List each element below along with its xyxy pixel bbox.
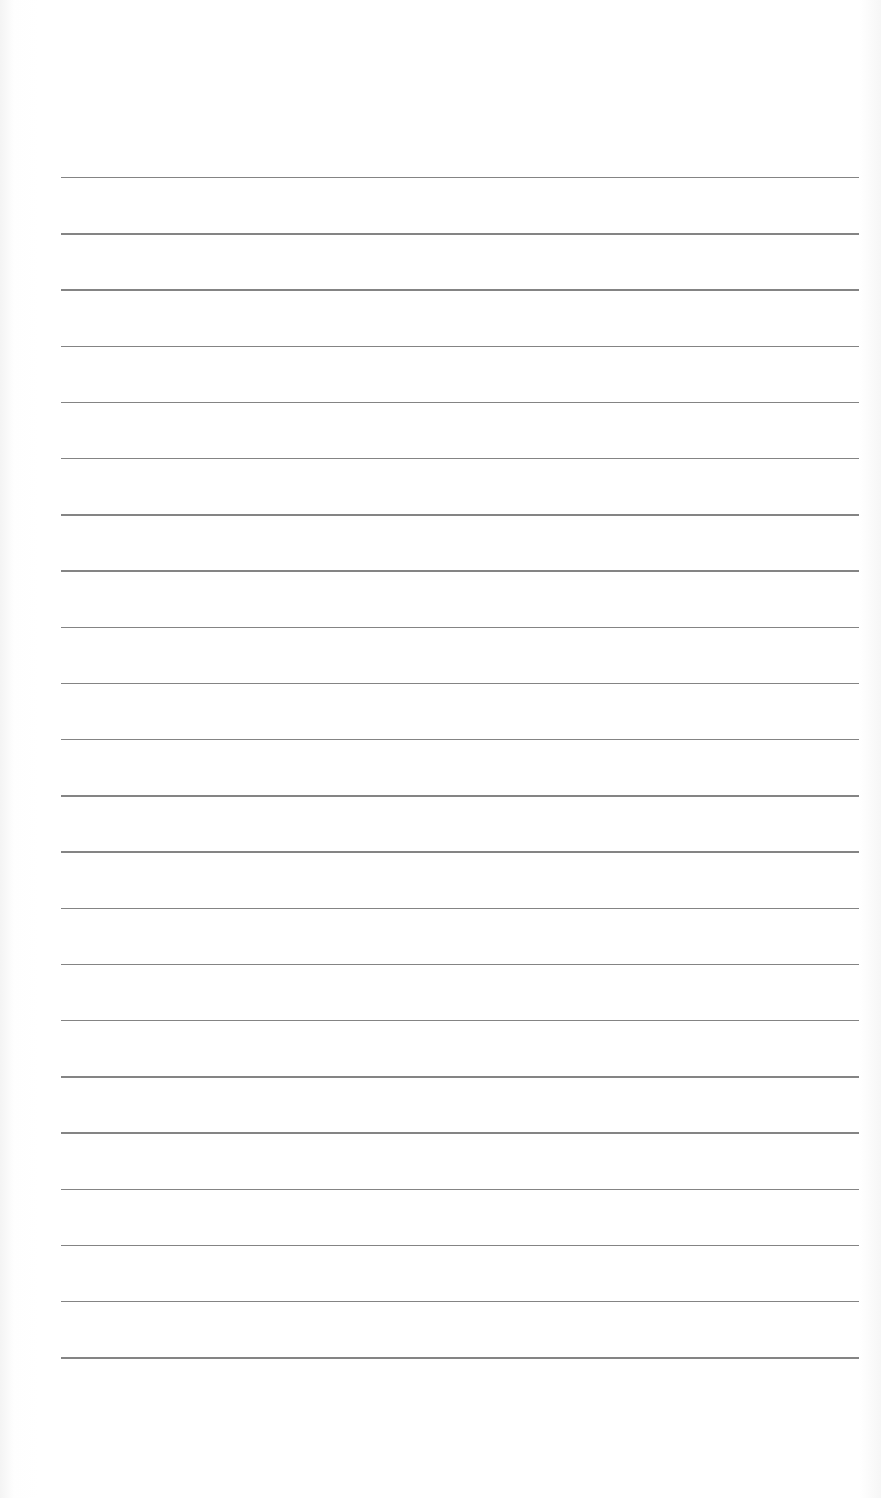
ruled-line: [61, 627, 859, 628]
lined-paper-page: [0, 0, 881, 1498]
ruled-line: [61, 1189, 859, 1190]
ruled-line: [61, 1301, 859, 1302]
ruled-line: [61, 1020, 859, 1021]
ruled-line: [61, 289, 859, 290]
ruled-line: [61, 851, 859, 852]
ruled-line: [61, 1076, 859, 1077]
ruled-line: [61, 177, 859, 178]
ruled-line: [61, 908, 859, 909]
ruled-line: [61, 739, 859, 740]
ruled-line: [61, 570, 859, 571]
ruled-line: [61, 683, 859, 684]
ruled-line: [61, 514, 859, 515]
ruled-line: [61, 233, 859, 234]
ruled-line: [61, 346, 859, 347]
ruled-line: [61, 964, 859, 965]
ruled-line: [61, 1245, 859, 1246]
ruled-line: [61, 1132, 859, 1133]
ruled-line: [61, 402, 859, 403]
ruled-line: [61, 795, 859, 796]
ruled-line: [61, 1357, 859, 1358]
ruled-line: [61, 458, 859, 459]
